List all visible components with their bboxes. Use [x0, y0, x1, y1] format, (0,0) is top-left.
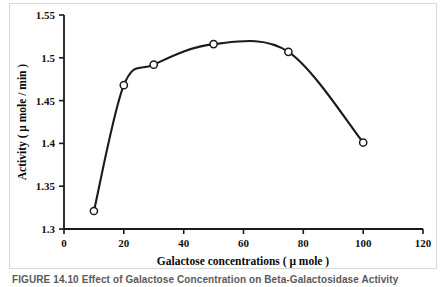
y-axis-title: Activity ( μ mole / min )	[16, 64, 29, 181]
y-tick-label-3: 1.45	[36, 95, 56, 107]
x-tick-label-5: 100	[355, 237, 372, 249]
x-tick-label-6: 120	[415, 237, 432, 249]
figure-caption: FIGURE 14.10 Effect of Galactose Concent…	[12, 274, 436, 285]
y-tick-label-0: 1.3	[41, 223, 55, 235]
activity-vs-galactose-line-chart: 1.3 1.35 1.4 1.45 1.5 1.55 Activity ( μ …	[10, 4, 436, 268]
y-tick-label-4: 1.5	[41, 52, 55, 64]
x-tick-label-3: 60	[238, 237, 250, 249]
x-axis-title: Galactose concentrations ( μ mole )	[157, 255, 329, 268]
figure-frame: 1.3 1.35 1.4 1.45 1.5 1.55 Activity ( μ …	[9, 3, 437, 269]
x-tick-label-0: 0	[61, 237, 67, 249]
data-point-marker	[90, 207, 97, 214]
data-point-marker	[150, 61, 157, 68]
data-point-marker	[360, 139, 367, 146]
x-tick-label-1: 20	[118, 237, 130, 249]
data-point-marker	[120, 82, 127, 89]
y-tick-label-1: 1.35	[36, 180, 56, 192]
y-tick-label-2: 1.4	[41, 137, 55, 149]
x-tick-label-4: 80	[298, 237, 310, 249]
data-point-marker	[210, 41, 217, 48]
data-point-marker	[285, 48, 292, 55]
x-tick-label-2: 40	[178, 237, 190, 249]
y-tick-label-5: 1.55	[36, 9, 56, 21]
